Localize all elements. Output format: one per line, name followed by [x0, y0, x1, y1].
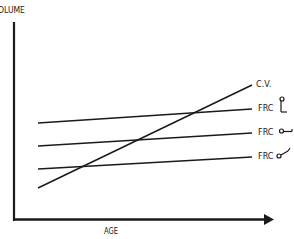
supine-posture-icon	[280, 129, 293, 133]
cv-line	[38, 85, 252, 188]
x-axis-arrowhead	[264, 214, 274, 225]
reclined-posture-icon	[277, 148, 290, 158]
upright-posture-icon	[280, 97, 287, 112]
cv-label: C.V.	[256, 78, 271, 89]
frc-reclined-line	[38, 157, 252, 169]
frc-upright-label: FRC	[258, 102, 273, 113]
frc-supine-label: FRC	[258, 126, 273, 137]
y-axis-label: OLUME	[0, 5, 25, 15]
x-axis-label: AGE	[104, 227, 118, 236]
frc-upright-line	[38, 109, 252, 123]
frc-reclined-label: FRC	[258, 150, 273, 161]
frc-supine-line	[38, 133, 252, 146]
chart-svg	[0, 0, 294, 239]
diagram-canvas: OLUME AGE C.V. FRC FRC FRC	[0, 0, 294, 239]
